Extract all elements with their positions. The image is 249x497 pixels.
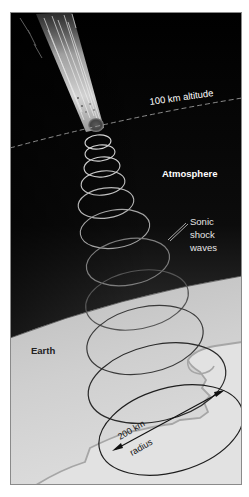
sonic-label-line3: waves: [189, 242, 217, 253]
meteor-shock-wave-diagram: 100 km altitude Atmosphere Sonic shock w…: [0, 0, 249, 497]
meteor-head: [88, 118, 104, 132]
sonic-label-line1: Sonic: [190, 216, 214, 227]
sonic-label-line2: shock: [190, 229, 215, 240]
earth-label: Earth: [31, 345, 55, 356]
atmosphere-label: Atmosphere: [162, 168, 217, 179]
